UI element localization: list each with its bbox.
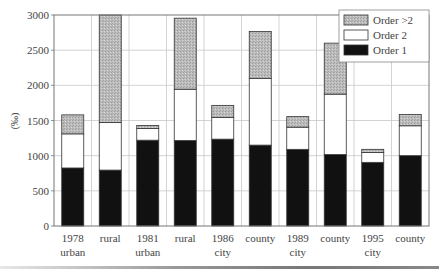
bar-segment-order-2 xyxy=(362,153,384,163)
bar-segment-order-1 xyxy=(137,140,159,226)
bar-segment-order-2 xyxy=(249,78,271,145)
legend: Order >2Order 2Order 1 xyxy=(339,10,429,62)
page-rule xyxy=(0,266,439,269)
legend-label: Order >2 xyxy=(373,14,413,26)
y-tick-label: 1000 xyxy=(27,150,50,162)
bar-segment-order-2 xyxy=(212,105,234,117)
x-tick-sublabel: city xyxy=(215,246,232,258)
y-tick-label: 0 xyxy=(44,220,50,232)
bar-segment-order-2 xyxy=(399,126,421,156)
x-axis-labels: 1978urbanrural1981urbanrural1986citycoun… xyxy=(60,232,425,258)
bar-segment-order-1 xyxy=(399,156,421,226)
bar-segment-order-1 xyxy=(62,168,84,226)
bar-stack xyxy=(174,18,196,226)
x-tick-label: rural xyxy=(175,232,196,244)
x-tick-sublabel: urban xyxy=(60,246,86,258)
bar-stack xyxy=(249,32,271,226)
bar-stack xyxy=(137,125,159,226)
x-tick-label: 1989 xyxy=(287,232,310,244)
y-tick-label: 500 xyxy=(33,185,50,197)
bar-segment-order-1 xyxy=(212,139,234,226)
legend-swatch xyxy=(344,30,368,40)
legend-swatch xyxy=(344,45,368,55)
bar-stack xyxy=(399,115,421,226)
bar-segment-order-2 xyxy=(174,18,196,89)
bar-stack xyxy=(362,149,384,226)
bar-segment-order-1 xyxy=(249,145,271,226)
y-tick-label: 2500 xyxy=(27,44,50,56)
x-tick-sublabel: city xyxy=(290,246,307,258)
bar-segment-order-1 xyxy=(362,162,384,226)
bar-stack xyxy=(287,117,309,226)
bar-stack xyxy=(99,15,121,226)
y-axis-label: (‰) xyxy=(9,113,21,130)
bar-segment-order-2 xyxy=(287,127,309,149)
bar-segment-order-2 xyxy=(399,115,421,126)
legend-label: Order 1 xyxy=(373,44,407,56)
x-tick-sublabel: city xyxy=(365,246,382,258)
legend-label: Order 2 xyxy=(373,29,407,41)
stacked-bar-chart: 050010001500200025003000 1978urbanrural1… xyxy=(0,0,439,270)
bar-segment-order-2 xyxy=(324,94,346,154)
bar-segment-order-2 xyxy=(212,117,234,139)
x-tick-sublabel: urban xyxy=(135,246,161,258)
x-tick-label: county xyxy=(395,232,425,244)
y-tick-label: 2000 xyxy=(27,79,50,91)
legend-swatch xyxy=(344,15,368,25)
bar-segment-order-2 xyxy=(99,123,121,170)
x-tick-label: 1978 xyxy=(62,232,85,244)
bar-stack xyxy=(324,43,346,226)
x-tick-label: 1995 xyxy=(362,232,385,244)
y-tick-label: 1500 xyxy=(27,115,50,127)
y-axis-ticks: 050010001500200025003000 xyxy=(27,9,54,232)
x-tick-label: 1981 xyxy=(137,232,159,244)
bar-segment-order-2 xyxy=(249,32,271,79)
bar-segment-order-1 xyxy=(324,155,346,226)
x-tick-label: county xyxy=(320,232,350,244)
bar-segment-order-2 xyxy=(287,117,309,128)
y-tick-label: 3000 xyxy=(27,9,50,21)
bar-segment-order-2 xyxy=(137,125,159,128)
bar-stack xyxy=(212,105,234,226)
bar-segment-order-1 xyxy=(287,149,309,226)
bar-segment-order-2 xyxy=(362,149,384,152)
x-tick-label: county xyxy=(245,232,275,244)
bar-segment-order-1 xyxy=(174,141,196,226)
bar-stack xyxy=(62,115,84,226)
bar-segment-order-2 xyxy=(99,15,121,123)
bar-segment-order-1 xyxy=(99,170,121,226)
bar-segment-order-2 xyxy=(174,89,196,140)
bar-segment-order-2 xyxy=(62,134,84,168)
x-tick-label: rural xyxy=(100,232,121,244)
bar-segment-order-2 xyxy=(137,129,159,141)
bar-segment-order-2 xyxy=(62,115,84,134)
x-tick-label: 1986 xyxy=(212,232,235,244)
